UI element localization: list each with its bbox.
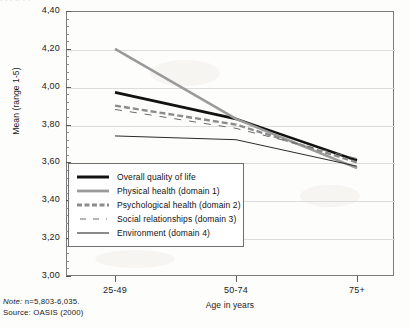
legend-swatch-dashed-thick-gray bbox=[76, 200, 110, 210]
legend-item-environment[interactable]: Environment (domain 4) bbox=[76, 226, 236, 240]
footnote-note-prefix: Note: bbox=[3, 297, 22, 306]
x-tick-label: 25-49 bbox=[80, 285, 150, 295]
footnote-note-value: n=5,803-6,035. bbox=[25, 297, 80, 306]
y-tick-major bbox=[66, 276, 71, 277]
legend-item-physical-health[interactable]: Physical health (domain 1) bbox=[76, 184, 236, 198]
x-tick bbox=[236, 276, 237, 282]
legend-swatch-solid-thin-black bbox=[76, 228, 110, 238]
x-tick-label: 75+ bbox=[322, 285, 392, 295]
x-tick-label: 50-74 bbox=[201, 285, 271, 295]
y-tick-label: 3,20 bbox=[22, 232, 60, 242]
footnotes: Note: n=5,803-6,035. Source: OASIS (2000… bbox=[3, 296, 84, 318]
figure-canvas: . . . .. . . 4,404,204,003,803,603,403,2… bbox=[0, 0, 410, 328]
footnote-source: Source: OASIS (2000) bbox=[3, 307, 84, 318]
y-tick-label: 3,40 bbox=[22, 194, 60, 204]
legend-label: Psychological health (domain 2) bbox=[117, 200, 241, 210]
cutoff-caption-fragment: . . . .. . . bbox=[0, 0, 30, 3]
x-tick bbox=[115, 276, 116, 282]
y-axis-title: Mean (range 1-5) bbox=[11, 41, 21, 161]
legend-label: Social relationships (domain 3) bbox=[117, 214, 236, 224]
legend-label: Overall quality of life bbox=[117, 172, 196, 182]
legend-item-psychological-health[interactable]: Psychological health (domain 2) bbox=[76, 198, 236, 212]
footnote-note: Note: n=5,803-6,035. bbox=[3, 296, 84, 307]
y-tick-label: 4,00 bbox=[22, 81, 60, 91]
scan-artifact-top: . . . .. . . bbox=[0, 0, 410, 7]
legend: Overall quality of life Physical health … bbox=[68, 163, 244, 247]
legend-label: Environment (domain 4) bbox=[117, 228, 210, 238]
x-axis-title: Age in years bbox=[66, 300, 394, 310]
y-tick-label: 4,40 bbox=[22, 5, 60, 15]
y-tick-label: 3,60 bbox=[22, 156, 60, 166]
legend-item-overall-quality-of-life[interactable]: Overall quality of life bbox=[76, 170, 236, 184]
y-tick-label: 3,00 bbox=[22, 270, 60, 280]
x-tick bbox=[357, 276, 358, 282]
legend-swatch-dashed-thin bbox=[76, 214, 110, 224]
legend-item-social-relationships[interactable]: Social relationships (domain 3) bbox=[76, 212, 236, 226]
legend-swatch-solid-thick-gray bbox=[76, 186, 110, 196]
legend-swatch-solid-thick-black bbox=[76, 172, 110, 182]
legend-label: Physical health (domain 1) bbox=[117, 186, 220, 196]
y-tick-label: 4,20 bbox=[22, 43, 60, 53]
y-tick-label: 3,80 bbox=[22, 119, 60, 129]
